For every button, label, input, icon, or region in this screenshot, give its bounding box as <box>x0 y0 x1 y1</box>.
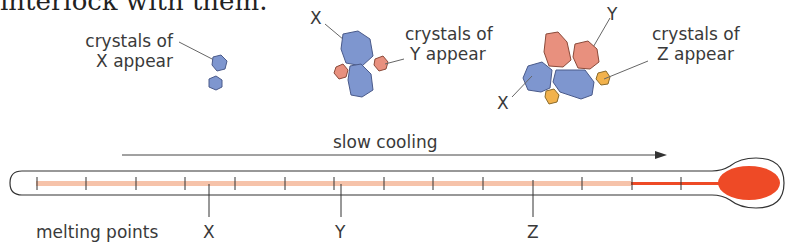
stage-2-crystals <box>325 24 404 97</box>
thermometer <box>10 158 784 217</box>
stage-3-label-line1: crystals of <box>652 24 740 44</box>
stage-3-label-line2: Z appear <box>652 44 740 64</box>
melting-points-label: melting points <box>36 222 158 242</box>
stage-1-crystals <box>179 42 227 90</box>
stage-3-existing-x-label: X <box>497 93 509 113</box>
melting-point-z: Z <box>527 222 539 242</box>
stage-2-existing-x-label: X <box>310 8 322 28</box>
melting-point-y: Y <box>335 222 345 242</box>
stage-2-label-line2: Y appear <box>405 44 493 64</box>
stage-2-label: crystals of Y appear <box>405 24 493 64</box>
slow-cooling-label: slow cooling <box>333 132 437 152</box>
mercury-bulb <box>718 166 780 200</box>
stage-1-label-line2: X appear <box>81 51 173 71</box>
stage-3-crystals <box>512 18 648 104</box>
stage-2-label-line1: crystals of <box>405 24 493 44</box>
slow-cooling-arrow <box>122 151 667 159</box>
stage-3-existing-y-label: Y <box>607 4 617 24</box>
stage-3-label: crystals of Z appear <box>652 24 740 64</box>
melting-point-x: X <box>203 222 215 242</box>
stage-1-label: crystals of X appear <box>81 31 173 71</box>
stage-1-label-line1: crystals of <box>81 31 173 51</box>
